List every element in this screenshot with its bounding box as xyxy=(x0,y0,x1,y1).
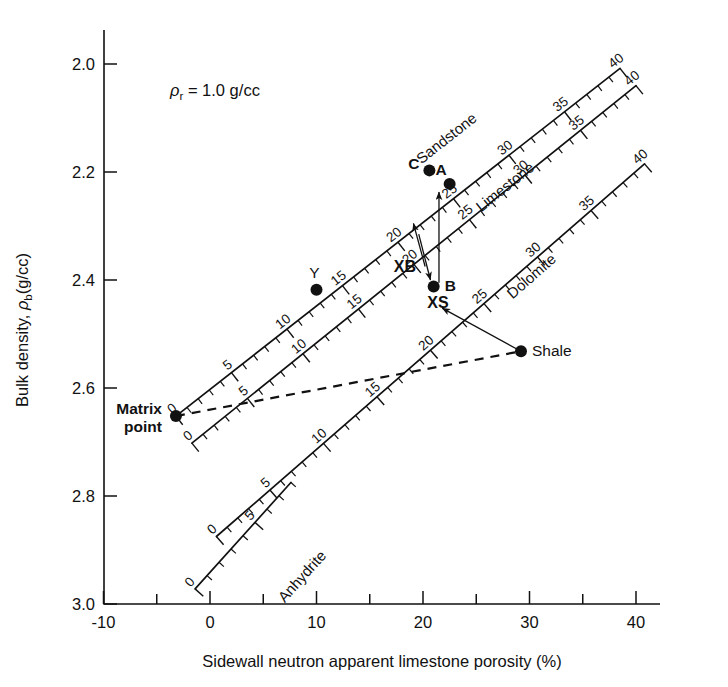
porosity-tick-minor xyxy=(576,103,580,108)
porosity-scale-label: 10 xyxy=(288,336,309,357)
porosity-tick-minor xyxy=(376,260,380,265)
porosity-tick-minor xyxy=(598,86,602,91)
x-tick-label: 20 xyxy=(414,613,432,631)
porosity-tick-minor xyxy=(531,138,535,143)
porosity-tick-minor xyxy=(220,381,224,386)
x-tick-label: -10 xyxy=(92,613,116,631)
porosity-tick-major xyxy=(377,397,384,405)
porosity-tick-minor xyxy=(302,462,306,467)
y-axis-tick-labels: 2.02.22.42.62.83.0 xyxy=(72,55,95,613)
porosity-tick-major xyxy=(342,286,349,295)
porosity-tick-minor xyxy=(570,229,574,234)
porosity-tick-minor xyxy=(243,536,248,540)
point-B: B xyxy=(428,277,456,294)
porosity-tick-minor xyxy=(602,201,606,206)
porosity-tick-major xyxy=(216,537,223,545)
porosity-tick-minor xyxy=(331,294,335,299)
porosity-tick-major xyxy=(591,210,598,218)
correction-labels: XBXS xyxy=(394,258,449,311)
y-axis-title-prefix: Bulk density, xyxy=(13,310,31,407)
porosity-tick-major xyxy=(484,304,491,312)
y-tick-label: 2.2 xyxy=(72,163,95,181)
porosity-scale-label: 15 xyxy=(344,291,365,312)
porosity-tick-minor xyxy=(313,453,317,458)
point-shale-label: Shale xyxy=(532,342,572,359)
porosity-tick-minor xyxy=(458,229,462,234)
porosity-tick-minor xyxy=(452,332,456,337)
x-tick-label: 40 xyxy=(627,613,645,631)
neutron-density-crossplot: 2.02.22.42.62.83.0 -10010203040 05101520… xyxy=(0,0,728,687)
lithology-line-sandstone: 0510152025303540Sandstone xyxy=(164,50,627,425)
y-axis-ticks xyxy=(104,64,117,604)
x-tick-label: 0 xyxy=(205,613,214,631)
y-tick-label: 2.0 xyxy=(72,55,95,73)
porosity-tick-minor xyxy=(634,173,638,178)
porosity-tick-major xyxy=(645,164,652,172)
porosity-tick-major xyxy=(469,220,476,229)
porosity-tick-minor xyxy=(580,220,584,225)
porosity-tick-minor xyxy=(623,183,627,188)
porosity-tick-minor xyxy=(465,190,469,195)
porosity-tick-minor xyxy=(495,294,499,299)
porosity-scale-label: 30 xyxy=(494,137,515,158)
porosity-tick-minor xyxy=(442,207,446,212)
porosity-scale-label: 10 xyxy=(272,311,293,332)
lithology-line-anhydrite: 05Anhydrite xyxy=(182,483,330,606)
point-Y-label: Y xyxy=(309,264,319,281)
point-A: A xyxy=(435,161,455,190)
figure-canvas: 2.02.22.42.62.83.0 -10010203040 05101520… xyxy=(0,0,728,687)
porosity-tick-minor xyxy=(356,415,360,420)
rho-b-symbol: ρ xyxy=(13,301,31,311)
porosity-tick-minor xyxy=(520,147,524,152)
point-B-marker xyxy=(428,280,440,292)
porosity-tick-minor xyxy=(279,496,284,500)
porosity-tick-minor xyxy=(463,322,467,327)
porosity-tick-minor xyxy=(347,318,351,323)
porosity-tick-minor xyxy=(473,313,477,318)
porosity-tick-minor xyxy=(231,549,236,553)
x-tick-label: 10 xyxy=(307,613,325,631)
porosity-tick-minor xyxy=(345,425,349,430)
porosity-tick-minor xyxy=(198,399,202,404)
porosity-tick-minor xyxy=(381,291,385,296)
porosity-tick-minor xyxy=(542,129,546,134)
porosity-tick-minor xyxy=(298,320,302,325)
porosity-tick-minor xyxy=(187,407,191,412)
porosity-tick-minor xyxy=(487,173,491,178)
porosity-tick-minor xyxy=(209,390,213,395)
y-tick-label: 2.4 xyxy=(72,271,95,289)
porosity-tick-minor xyxy=(265,347,269,352)
svg-text:ρr = 1.0 g/cc: ρr = 1.0 g/cc xyxy=(169,81,260,102)
porosity-tick-major xyxy=(398,242,405,251)
porosity-tick-minor xyxy=(325,336,329,341)
porosity-tick-minor xyxy=(431,216,435,221)
y-tick-label: 2.6 xyxy=(72,379,95,397)
porosity-tick-minor xyxy=(281,372,285,377)
point-A-marker xyxy=(444,178,456,190)
porosity-tick-major xyxy=(247,398,254,407)
porosity-tick-minor xyxy=(254,355,258,360)
porosity-scale-label: 15 xyxy=(328,268,349,289)
point-shale: Shale xyxy=(515,342,572,359)
porosity-tick-major xyxy=(636,86,643,95)
porosity-scale-label: 15 xyxy=(362,379,383,400)
y-tick-label: 3.0 xyxy=(72,595,95,613)
porosity-tick-minor xyxy=(612,192,616,197)
porosity-tick-minor xyxy=(420,225,424,230)
porosity-tick-minor xyxy=(292,363,296,368)
matrix-point-label-line2: point xyxy=(124,418,162,435)
y-axis-title-text: Bulk density, ρb(g/cc) xyxy=(13,253,34,407)
porosity-tick-minor xyxy=(370,300,374,305)
porosity-scale-label: 40 xyxy=(621,67,642,88)
porosity-tick-minor xyxy=(267,509,272,513)
fluid-density-value: = 1.0 g/cc xyxy=(183,81,260,99)
correction-label-xb: XB xyxy=(394,258,416,275)
porosity-tick-minor xyxy=(476,181,480,186)
porosity-tick-major xyxy=(231,373,238,382)
porosity-tick-minor xyxy=(420,360,424,365)
porosity-tick-minor xyxy=(291,471,295,476)
porosity-tick-minor xyxy=(609,77,613,82)
porosity-tick-minor xyxy=(309,312,313,317)
porosity-scale-label: 35 xyxy=(576,192,597,213)
porosity-tick-minor xyxy=(243,364,247,369)
